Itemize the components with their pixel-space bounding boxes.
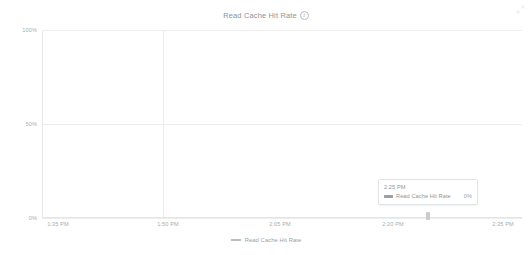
gridline-0 — [42, 218, 522, 219]
chart-legend[interactable]: Read Cache Hit Rate — [0, 237, 532, 243]
y-axis-label-0: 0% — [29, 215, 37, 221]
x-axis-label-5: 2:35 PM — [492, 221, 514, 227]
chart-panel: Read Cache Hit Rate i 100% 50% 0% 1:35 P… — [0, 0, 532, 255]
legend-label-read-cache-hit-rate: Read Cache Hit Rate — [245, 237, 302, 243]
y-axis-label-50: 50% — [26, 121, 38, 127]
chart-tooltip: 2:25 PM Read Cache Hit Rate 0% — [378, 179, 478, 205]
chart-title-text: Read Cache Hit Rate — [223, 11, 297, 20]
x-axis-label-3: 2:05 PM — [269, 221, 291, 227]
gridline-vertical-1-50pm — [163, 30, 164, 218]
expand-icon[interactable] — [516, 5, 525, 14]
tooltip-series-name: Read Cache Hit Rate — [396, 193, 461, 199]
page-title: Read Cache Hit Rate i — [0, 11, 532, 20]
tooltip-time: 2:25 PM — [384, 184, 472, 190]
tooltip-series-row: Read Cache Hit Rate 0% — [384, 193, 472, 199]
tooltip-series-swatch — [384, 195, 393, 198]
tooltip-series-value: 0% — [464, 193, 472, 199]
gridline-50 — [42, 124, 522, 125]
gridline-100 — [42, 30, 522, 31]
series-line-read-cache-hit-rate — [42, 217, 522, 218]
hover-marker[interactable] — [426, 212, 430, 220]
x-axis-label-4: 2:20 PM — [382, 221, 404, 227]
x-axis-label-2: 1:50 PM — [157, 221, 179, 227]
info-icon[interactable]: i — [300, 11, 309, 20]
x-axis-label-1: 1:35 PM — [47, 221, 69, 227]
y-axis-label-100: 100% — [22, 27, 37, 33]
legend-swatch-read-cache-hit-rate — [231, 239, 241, 241]
